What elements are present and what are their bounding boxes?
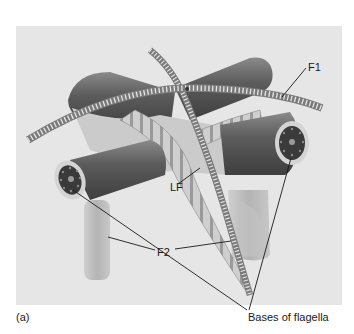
flagella-illustration bbox=[0, 0, 354, 334]
crossing-point bbox=[185, 87, 189, 91]
label-lf: LF bbox=[170, 182, 183, 193]
flagella-diagram: F1 LF F2 (a) Bases of flagella bbox=[0, 0, 354, 334]
label-f1: F1 bbox=[308, 62, 321, 73]
label-f2: F2 bbox=[157, 247, 170, 258]
label-bases-of-flagella: Bases of flagella bbox=[248, 312, 329, 323]
panel-label: (a) bbox=[16, 312, 29, 323]
left-leg bbox=[84, 200, 110, 280]
